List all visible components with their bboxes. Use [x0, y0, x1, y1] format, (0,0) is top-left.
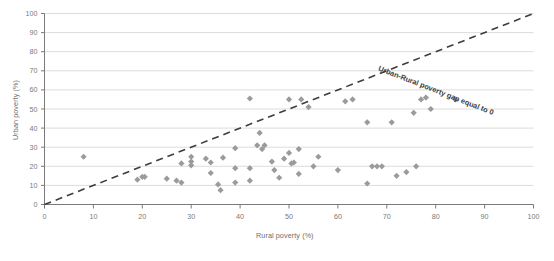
- data-point: [276, 175, 282, 181]
- data-point: [271, 167, 277, 173]
- x-tick-label: 30: [179, 212, 203, 221]
- y-tick-label: 10: [16, 181, 38, 190]
- x-tick-label: 0: [33, 212, 57, 221]
- data-point: [232, 145, 238, 151]
- data-point: [298, 96, 304, 102]
- data-point: [178, 160, 184, 166]
- data-point: [335, 167, 341, 173]
- x-tick-label: 20: [130, 212, 154, 221]
- data-point: [281, 156, 287, 162]
- data-point: [134, 177, 140, 183]
- data-point: [232, 179, 238, 185]
- data-point: [428, 106, 434, 112]
- data-point: [247, 178, 253, 184]
- data-point: [220, 155, 226, 161]
- data-point: [215, 181, 221, 187]
- data-point: [286, 150, 292, 156]
- y-tick-label: 30: [16, 143, 38, 152]
- x-tick-label: 80: [424, 212, 448, 221]
- y-tick-label: 40: [16, 124, 38, 133]
- data-point: [217, 187, 223, 193]
- y-tick-label: 90: [16, 28, 38, 37]
- x-tick-label: 40: [228, 212, 252, 221]
- data-point: [203, 156, 209, 162]
- y-tick-label: 0: [16, 200, 38, 209]
- data-point: [393, 173, 399, 179]
- x-tick-label: 100: [522, 212, 546, 221]
- data-point: [349, 96, 355, 102]
- x-tick-label: 50: [277, 212, 301, 221]
- data-point: [296, 171, 302, 177]
- data-point: [247, 95, 253, 101]
- y-tick-label: 50: [16, 105, 38, 114]
- x-axis-ticks: [45, 205, 534, 209]
- data-point: [208, 170, 214, 176]
- y-axis-ticks: [41, 14, 45, 205]
- x-tick-label: 60: [326, 212, 350, 221]
- data-point: [286, 96, 292, 102]
- data-point: [310, 163, 316, 169]
- data-point: [269, 158, 275, 164]
- y-tick-label: 60: [16, 85, 38, 94]
- data-point: [389, 119, 395, 125]
- data-point: [342, 98, 348, 104]
- data-point: [413, 163, 419, 169]
- y-tick-label: 100: [16, 9, 38, 18]
- x-axis-title: Rural poverty (%): [256, 231, 314, 240]
- y-tick-label: 20: [16, 162, 38, 171]
- data-point: [257, 130, 263, 136]
- data-point: [364, 119, 370, 125]
- data-point: [403, 169, 409, 175]
- x-tick-label: 10: [81, 212, 105, 221]
- data-point: [208, 159, 214, 165]
- plot-canvas: [0, 0, 554, 261]
- data-point: [315, 154, 321, 160]
- x-tick-label: 70: [375, 212, 399, 221]
- y-tick-label: 80: [16, 47, 38, 56]
- x-tick-label: 90: [473, 212, 497, 221]
- data-point: [164, 176, 170, 182]
- scatter-chart: Urban poverty (%) Rural poverty (%) Urba…: [0, 0, 554, 261]
- data-point: [188, 162, 194, 168]
- data-point: [379, 163, 385, 169]
- y-tick-label: 70: [16, 66, 38, 75]
- data-point: [81, 154, 87, 160]
- data-point: [411, 110, 417, 116]
